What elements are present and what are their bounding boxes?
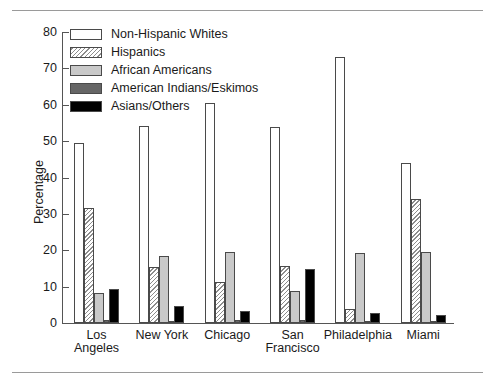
hatched-swatch [70, 47, 102, 58]
tick-mark [63, 323, 69, 324]
legend-label: African Americans [111, 64, 212, 77]
bar [401, 163, 411, 323]
bar [109, 289, 119, 323]
dark-gray-swatch [70, 83, 102, 94]
legend-item: African Americans [70, 62, 258, 78]
legend-item: Asians/Others [70, 98, 258, 114]
bar [84, 208, 94, 323]
legend-item: Non-Hispanic Whites [70, 26, 258, 42]
bar [345, 309, 355, 323]
legend-label: American Indians/Eskimos [111, 82, 258, 95]
bar [355, 253, 365, 323]
legend-item: American Indians/Eskimos [70, 80, 258, 96]
bar [305, 269, 315, 323]
x-tick-label: New York [135, 329, 188, 342]
bar [370, 313, 380, 323]
bar [205, 103, 215, 323]
figure: Percentage 01020304050607080 LosAngelesN… [0, 0, 495, 384]
legend-label: Asians/Others [111, 100, 190, 113]
x-tick-label: SanFrancisco [265, 329, 319, 355]
bar [74, 143, 84, 323]
bar-group: SanFrancisco [270, 32, 315, 323]
y-tick-label: 0 [50, 317, 57, 330]
bar [149, 267, 159, 323]
bar [174, 306, 184, 323]
bar [240, 311, 250, 323]
bar [159, 256, 169, 323]
x-tick-label: Miami [406, 329, 439, 342]
top-rule [12, 10, 483, 11]
black-swatch [70, 101, 102, 112]
y-tick-label: 10 [43, 280, 57, 293]
y-tick-label: 80 [43, 26, 57, 39]
legend-label: Hispanics [111, 46, 165, 59]
bar [225, 252, 235, 323]
x-axis-line [62, 323, 454, 324]
bar-group: Philadelphia [335, 32, 380, 323]
x-tick-label: Philadelphia [324, 329, 392, 342]
bar [215, 282, 225, 323]
y-tick-label: 40 [43, 171, 57, 184]
bar-group: Miami [401, 32, 446, 323]
bar [436, 315, 446, 323]
y-tick-label: 30 [43, 208, 57, 221]
x-tick-label: LosAngeles [74, 329, 119, 355]
x-tick-label: Chicago [204, 329, 250, 342]
bar [290, 291, 300, 323]
bar [94, 293, 104, 323]
bar [139, 126, 149, 323]
light-gray-swatch [70, 65, 102, 76]
y-tick-label: 20 [43, 244, 57, 257]
legend-item: Hispanics [70, 44, 258, 60]
bar [335, 57, 345, 323]
white-swatch [70, 29, 102, 40]
bottom-rule [12, 372, 483, 373]
y-tick-label: 70 [43, 62, 57, 75]
legend: Non-Hispanic WhitesHispanicsAfrican Amer… [70, 26, 258, 114]
legend-label: Non-Hispanic Whites [111, 28, 228, 41]
bar [280, 266, 290, 323]
bar [270, 127, 280, 323]
bar [421, 252, 431, 323]
bar [411, 199, 421, 323]
y-tick-label: 50 [43, 135, 57, 148]
y-tick-label: 60 [43, 99, 57, 112]
